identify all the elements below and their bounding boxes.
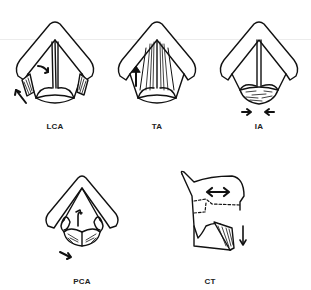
label-pca: PCA [73,277,91,286]
ta-illustration [118,22,195,103]
ia-illustration [220,22,297,115]
label-lca: LCA [46,122,63,131]
lca-illustration [15,22,94,103]
larynx-muscles-diagram [0,0,311,290]
label-ta: TA [152,122,162,131]
pca-illustration [46,176,118,259]
label-ia: IA [255,122,263,131]
label-ct: CT [204,277,215,286]
ct-illustration [181,171,246,250]
